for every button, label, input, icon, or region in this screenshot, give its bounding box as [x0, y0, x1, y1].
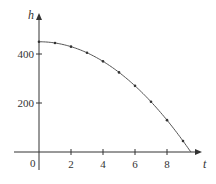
x-tick-label: 4	[100, 158, 106, 170]
chart-canvas: 2468 200400 t h 0	[0, 0, 216, 184]
y-axis-label: h	[28, 8, 34, 22]
data-markers	[38, 40, 185, 142]
y-tick-label: 400	[18, 48, 35, 60]
x-tick-label: 6	[132, 158, 138, 170]
data-point	[102, 60, 105, 63]
y-tick-label: 200	[18, 97, 35, 109]
data-point	[86, 51, 89, 54]
data-point	[38, 40, 41, 43]
y-axis-arrow-icon	[36, 13, 42, 20]
data-point	[150, 100, 153, 103]
data-point	[182, 140, 185, 143]
x-axis-label: t	[203, 157, 207, 171]
x-tick-label: 8	[164, 158, 170, 170]
y-axis	[36, 13, 42, 170]
x-tick-label: 2	[68, 158, 74, 170]
data-point	[134, 85, 137, 88]
y-ticks: 200400	[18, 48, 43, 109]
data-point	[166, 119, 169, 122]
origin-label: 0	[30, 157, 36, 169]
x-axis-arrow-icon	[195, 149, 202, 155]
data-point	[70, 45, 73, 48]
data-curve	[39, 42, 191, 152]
x-axis	[14, 149, 202, 155]
data-point	[54, 42, 57, 45]
data-point	[118, 71, 121, 74]
